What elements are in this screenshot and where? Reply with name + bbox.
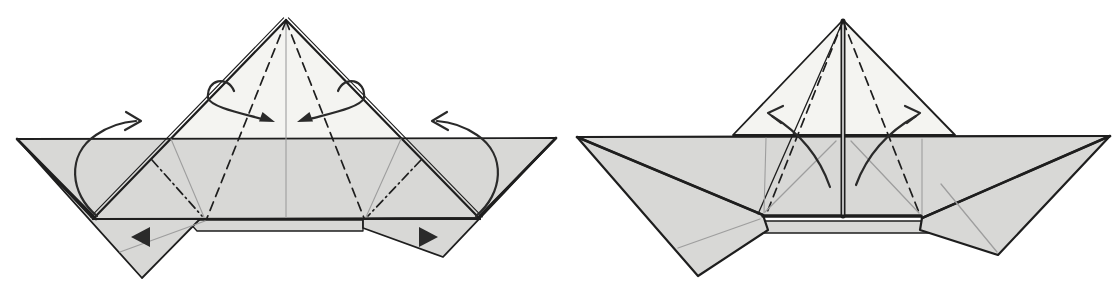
origami-diagram: [0, 0, 1116, 298]
figure-step-left: [17, 18, 556, 278]
hull-strip-face: [743, 221, 938, 233]
origami-diagram-svg: [0, 0, 1116, 298]
hull-strip-face: [187, 220, 363, 231]
figure-step-right: [577, 20, 1110, 276]
